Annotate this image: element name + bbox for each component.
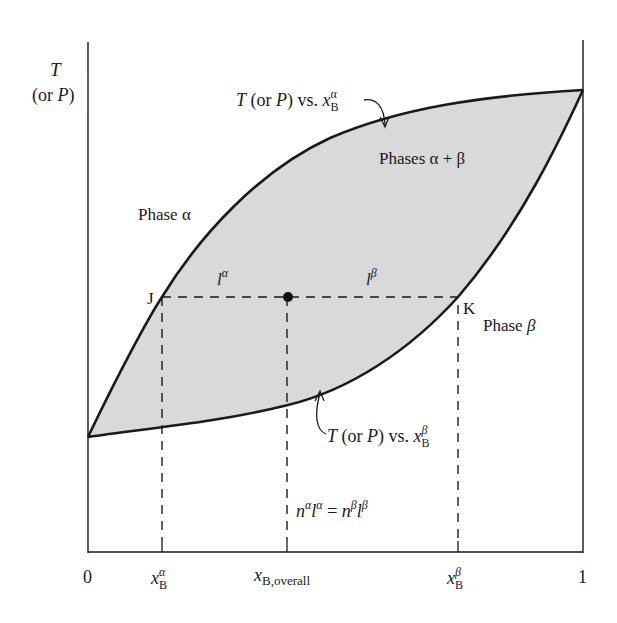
tick-xb-base: x xyxy=(447,568,455,588)
lever-s2: α xyxy=(316,498,322,512)
label-sub: B xyxy=(422,437,430,449)
lever-s1: α xyxy=(305,498,311,512)
label-T: T xyxy=(236,90,246,110)
label-or: (or xyxy=(246,90,276,110)
lever-eq: = xyxy=(323,501,342,521)
phase-beta-text: Phase xyxy=(483,316,527,335)
point-J-label: J xyxy=(147,290,154,307)
lever-n2: n xyxy=(342,501,351,521)
tick-xa-sup: α xyxy=(159,566,165,578)
l-alpha-label: lα xyxy=(217,271,228,288)
label-or: (or xyxy=(337,426,367,446)
label-x: x xyxy=(414,426,422,446)
phases-alpha-beta-label: Phases α + β xyxy=(379,150,465,167)
x-tick-xB-overall: xB,overall xyxy=(254,566,310,584)
l-alpha-sup: α xyxy=(222,266,228,280)
l-beta-sup: β xyxy=(371,266,377,280)
lever-s4: β xyxy=(362,498,368,512)
tick-xo-sub: B,overall xyxy=(262,573,310,588)
phase-alpha-label: Phase α xyxy=(138,206,191,223)
label-sup-sub: αB xyxy=(331,88,343,116)
label-sup: α xyxy=(331,88,337,100)
y-axis-label-orP: (or P) xyxy=(32,86,75,104)
tick-xo-base: x xyxy=(254,565,262,585)
label-sub: B xyxy=(331,101,339,113)
lever-n1: n xyxy=(296,501,305,521)
label-T: T xyxy=(327,426,337,446)
tick-xb-sup: β xyxy=(455,566,461,578)
point-K-label: K xyxy=(463,300,475,317)
overall-composition-point xyxy=(283,292,293,302)
upper-curve-label: T (or P) vs. xαB xyxy=(236,88,343,116)
label-sup-sub: βB xyxy=(422,424,434,452)
y-axis-label-T: T xyxy=(50,60,61,79)
y-axis-close: ) xyxy=(69,85,75,105)
tick-xb-supsub: βB xyxy=(455,566,467,594)
tick-xa-supsub: αB xyxy=(159,566,171,594)
y-axis-P: P xyxy=(58,85,69,105)
label-sup: β xyxy=(422,424,428,436)
lever-s3: β xyxy=(351,498,357,512)
label-P: P xyxy=(276,90,287,110)
lower-curve-label: T (or P) vs. xβB xyxy=(327,424,434,452)
arrow-beta-leader xyxy=(317,393,326,434)
label-x: x xyxy=(323,90,331,110)
phase-beta-symbol: β xyxy=(527,316,535,335)
label-vs: ) vs. xyxy=(378,426,414,446)
label-vs: ) vs. xyxy=(287,90,323,110)
tick-xb-sub: B xyxy=(455,579,463,591)
phase-beta-label: Phase β xyxy=(483,317,535,334)
x-tick-xB-alpha: xαB xyxy=(151,566,171,594)
tick-xa-base: x xyxy=(151,568,159,588)
l-beta-label: lβ xyxy=(366,271,377,288)
tick-xa-sub: B xyxy=(159,579,167,591)
x-tick-xB-beta: xβB xyxy=(447,566,467,594)
y-axis-or-text: (or xyxy=(32,85,58,105)
lever-rule-equation: nαlα = nβlβ xyxy=(296,502,368,520)
x-tick-1: 1 xyxy=(578,568,587,586)
label-P: P xyxy=(367,426,378,446)
x-tick-0: 0 xyxy=(83,568,92,586)
